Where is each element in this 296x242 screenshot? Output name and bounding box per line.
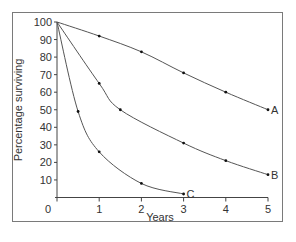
series-A-marker [224, 91, 227, 94]
y-tick-label: 10 [40, 174, 52, 186]
series-A-marker [267, 108, 270, 111]
series-A-marker [98, 35, 101, 38]
y-tick-label: 100 [34, 16, 52, 28]
x-tick-label: 0 [45, 203, 51, 215]
x-tick-label: 1 [96, 203, 102, 215]
series-A-label: A [271, 104, 279, 116]
y-tick-label: 50 [40, 104, 52, 116]
x-tick-label: 3 [181, 203, 187, 215]
series-A-marker [182, 71, 185, 74]
series-C-marker [98, 150, 101, 153]
series-C-marker [182, 193, 185, 196]
y-tick-label: 60 [40, 86, 52, 98]
y-tick-label: 90 [40, 34, 52, 46]
y-tick-label: 80 [40, 51, 52, 63]
series-C-line [57, 22, 184, 194]
y-tick-label: 30 [40, 139, 52, 151]
y-tick-label: 70 [40, 69, 52, 81]
x-axis-label: Years [146, 211, 174, 223]
series-A-marker [140, 50, 143, 53]
series-B-line [57, 22, 268, 175]
y-tick-label: 40 [40, 121, 52, 133]
series-B-marker [224, 159, 227, 162]
series-C-marker [77, 110, 80, 113]
series-C-label: C [187, 188, 195, 200]
x-tick-label: 5 [265, 203, 271, 215]
series-B-marker [98, 82, 101, 85]
x-tick-label: 2 [138, 203, 144, 215]
series-B-marker [119, 108, 122, 111]
series-A-line [57, 22, 268, 110]
series-B-label: B [271, 169, 278, 181]
survival-chart: 102030405060708090100012345ABC [0, 0, 296, 242]
series-B-marker [182, 142, 185, 145]
x-tick-label: 4 [223, 203, 229, 215]
series-B-marker [267, 173, 270, 176]
y-axis-label: Percentage surviving [12, 59, 24, 162]
series-C-marker [140, 182, 143, 185]
y-tick-label: 20 [40, 156, 52, 168]
